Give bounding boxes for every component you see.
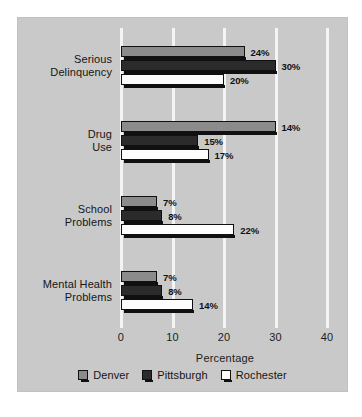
bar-denver	[121, 121, 276, 132]
legend-label: Pittsburgh	[157, 369, 208, 381]
bar-pittsburgh	[121, 210, 162, 221]
x-tick-label: 40	[321, 331, 334, 343]
bar-group: SchoolProblems7%8%22%	[121, 196, 329, 235]
legend-label: Rochester	[236, 369, 287, 381]
bar-rochester	[121, 74, 224, 85]
bar-row: 8%	[121, 285, 329, 296]
category-label: Mental HealthProblems	[43, 278, 112, 304]
bar-value-label: 7%	[163, 271, 177, 282]
bar-row: 7%	[121, 196, 329, 207]
bar-row: 14%	[121, 121, 329, 132]
bar-value-label: 8%	[168, 285, 182, 296]
chart-panel: SeriousDelinquency24%30%20%DrugUse14%15%…	[17, 17, 348, 392]
bar-row: 24%	[121, 46, 329, 57]
bar-rochester	[121, 224, 234, 235]
legend-swatch-icon	[142, 370, 152, 380]
x-tick-label: 20	[218, 331, 231, 343]
bar-rochester	[121, 149, 209, 160]
bar-denver	[121, 196, 157, 207]
bar-denver	[121, 46, 245, 57]
bar-pittsburgh	[121, 60, 276, 71]
category-label: SchoolProblems	[65, 203, 112, 229]
bar-row: 8%	[121, 210, 329, 221]
legend-label: Denver	[93, 369, 129, 381]
bar-rochester	[121, 299, 193, 310]
bar-group: Mental HealthProblems7%8%14%	[121, 271, 329, 310]
bar-row: 14%	[121, 299, 329, 310]
x-tick-label: 10	[166, 331, 179, 343]
bar-pittsburgh	[121, 285, 162, 296]
bar-value-label: 20%	[230, 74, 249, 85]
legend-item-pittsburgh[interactable]: Pittsburgh	[142, 369, 208, 381]
bar-row: 17%	[121, 149, 329, 160]
bar-value-label: 7%	[163, 196, 177, 207]
legend-swatch-icon	[221, 370, 231, 380]
plot-area: SeriousDelinquency24%30%20%DrugUse14%15%…	[121, 28, 329, 328]
bar-value-label: 24%	[251, 46, 270, 57]
bar-value-label: 17%	[215, 149, 234, 160]
category-label: SeriousDelinquency	[50, 53, 112, 79]
bar-pittsburgh	[121, 135, 198, 146]
legend-swatch-icon	[78, 370, 88, 380]
bar-group: DrugUse14%15%17%	[121, 121, 329, 160]
bar-value-label: 30%	[282, 60, 301, 71]
x-tick-label: 30	[269, 331, 282, 343]
bar-value-label: 15%	[204, 135, 223, 146]
category-label: DrugUse	[88, 128, 112, 154]
bar-value-label: 14%	[282, 121, 301, 132]
bar-row: 20%	[121, 74, 329, 85]
bar-denver	[121, 271, 157, 282]
bar-group: SeriousDelinquency24%30%20%	[121, 46, 329, 85]
bar-row: 22%	[121, 224, 329, 235]
x-axis-title: Percentage	[121, 352, 329, 364]
chart-legend: DenverPittsburghRochester	[17, 369, 348, 381]
bar-row: 15%	[121, 135, 329, 146]
chart-figure: SeriousDelinquency24%30%20%DrugUse14%15%…	[0, 0, 362, 417]
bar-value-label: 22%	[240, 224, 259, 235]
bar-value-label: 8%	[168, 210, 182, 221]
bar-row: 30%	[121, 60, 329, 71]
legend-item-rochester[interactable]: Rochester	[221, 369, 287, 381]
x-tick-label: 0	[118, 331, 124, 343]
bar-value-label: 14%	[199, 299, 218, 310]
bar-row: 7%	[121, 271, 329, 282]
legend-item-denver[interactable]: Denver	[78, 369, 129, 381]
